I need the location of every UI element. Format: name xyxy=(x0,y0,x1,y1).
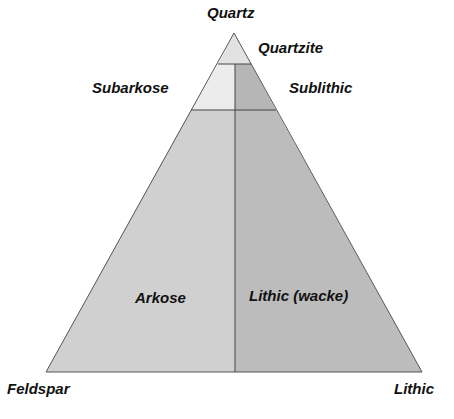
field-label-subarkose: Subarkose xyxy=(92,79,169,96)
ternary-diagram xyxy=(0,0,454,419)
field-label-quartzite: Quartzite xyxy=(258,39,323,56)
field-label-lithic-wacke: Lithic (wacke) xyxy=(249,287,348,304)
field-lithic xyxy=(235,110,422,372)
vertex-label-quartz: Quartz xyxy=(207,4,255,21)
field-quartzite xyxy=(218,33,251,64)
vertex-label-feldspar: Feldspar xyxy=(7,380,70,397)
vertex-label-lithic: Lithic xyxy=(394,380,434,397)
field-arkose xyxy=(46,110,235,372)
field-label-arkose: Arkose xyxy=(135,289,186,306)
field-label-sublithic: Sublithic xyxy=(289,79,352,96)
